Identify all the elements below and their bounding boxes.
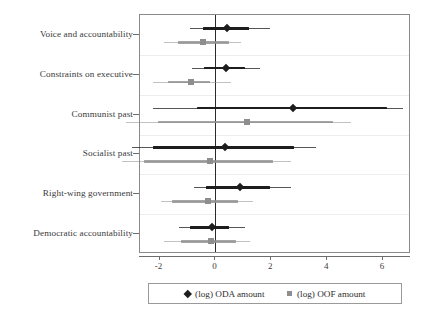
data-point-marker: [207, 158, 213, 164]
y-axis-tick: [133, 114, 139, 115]
y-axis-label: Democratic accountability: [33, 228, 133, 238]
square-marker-icon: [287, 291, 293, 297]
data-point-marker: [205, 198, 211, 204]
grid-line: [140, 95, 409, 96]
data-point-marker: [289, 103, 297, 111]
data-point-marker: [221, 143, 229, 151]
y-axis-tick: [133, 34, 139, 35]
y-axis-category-labels: Voice and accountabilityConstraints on e…: [0, 0, 133, 312]
legend-label-oof: (log) OOF amount: [297, 289, 365, 299]
data-point-marker: [222, 24, 230, 32]
x-axis-tick-label: 6: [380, 261, 385, 271]
coefficient-plot-figure: Voice and accountabilityConstraints on e…: [0, 0, 427, 312]
x-axis-tick-label: 2: [268, 261, 273, 271]
y-axis-label: Socialist past: [83, 148, 133, 158]
legend-label-oda: (log) ODA amount: [195, 289, 264, 299]
data-point-marker: [200, 39, 206, 45]
grid-line: [140, 174, 409, 175]
diamond-marker-icon: [183, 290, 191, 298]
data-point-marker: [222, 64, 230, 72]
grid-line: [140, 214, 409, 215]
legend-entry-oda: (log) ODA amount: [185, 289, 265, 299]
x-axis-tick-label: -2: [155, 261, 163, 271]
x-axis-tick-label: 4: [324, 261, 329, 271]
legend-entry-oof: (log) OOF amount: [287, 289, 366, 299]
y-axis-label: Constraints on executive: [40, 69, 133, 79]
y-axis-tick: [133, 193, 139, 194]
x-axis-tick: [270, 256, 271, 260]
data-point-marker: [188, 79, 194, 85]
x-axis-tick-label: 0: [212, 261, 217, 271]
y-axis-label: Voice and accountability: [40, 29, 133, 39]
data-point-marker: [244, 119, 250, 125]
y-axis-tick: [133, 153, 139, 154]
data-point-marker: [236, 183, 244, 191]
grid-line: [140, 135, 409, 136]
y-axis-tick: [133, 233, 139, 234]
plot-area: [139, 14, 410, 253]
data-point-marker: [208, 238, 214, 244]
grid-line: [140, 55, 409, 56]
y-axis-label: Right-wing government: [43, 188, 133, 198]
zero-reference-line: [215, 15, 216, 252]
x-axis-tick: [159, 256, 160, 260]
x-axis-tick: [382, 256, 383, 260]
x-axis-line: [139, 256, 410, 257]
x-axis-tick: [214, 256, 215, 260]
x-axis-tick: [326, 256, 327, 260]
y-axis-label: Communist past: [72, 109, 133, 119]
chart-legend: (log) ODA amount (log) OOF amount: [148, 283, 402, 304]
y-axis-tick: [133, 74, 139, 75]
